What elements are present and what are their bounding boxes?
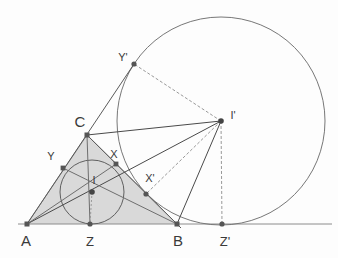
label-a: A: [21, 232, 31, 249]
label-x: X: [110, 148, 118, 160]
label-c: C: [75, 113, 86, 130]
geometry-diagram: A B C Z Z' I I' X X' Y Y': [0, 0, 338, 258]
label-xprime: X': [145, 172, 154, 184]
segment-c-iprime: [87, 121, 221, 135]
point-iprime: [218, 118, 224, 124]
label-yprime: Y': [118, 51, 127, 63]
point-x: [114, 162, 119, 167]
radius-iprime-zprime-dashed: [221, 121, 222, 224]
point-yprime: [131, 61, 136, 66]
figure-canvas: A B C Z Z' I I' X X' Y Y': [0, 0, 338, 258]
point-zprime: [219, 221, 224, 226]
point-a: [25, 222, 30, 227]
label-y: Y: [47, 150, 55, 162]
point-i: [89, 189, 95, 195]
radius-iprime-yprime-dashed: [134, 64, 221, 121]
point-b: [175, 222, 180, 227]
point-xprime: [143, 191, 148, 196]
point-z: [87, 221, 92, 226]
label-b: B: [173, 232, 183, 249]
segment-b-iprime: [177, 121, 221, 224]
label-z: Z: [86, 234, 94, 249]
label-i: I: [92, 174, 95, 186]
label-zprime: Z': [220, 234, 230, 249]
radius-iprime-xprime-dashed: [146, 121, 221, 194]
label-iprime: I': [230, 109, 235, 121]
point-c: [85, 133, 90, 138]
point-y: [61, 166, 66, 171]
